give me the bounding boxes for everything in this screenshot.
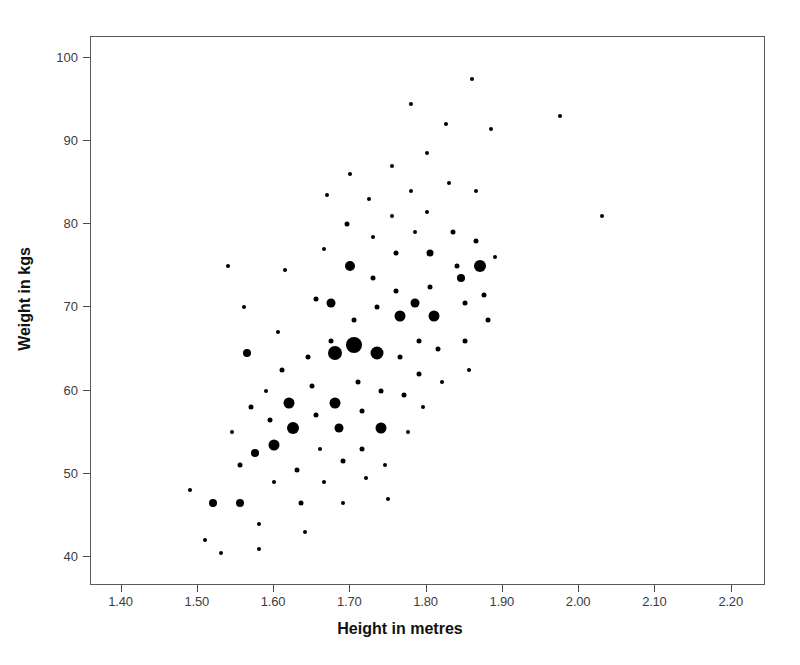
y-axis-tick — [83, 223, 90, 224]
data-point — [283, 268, 287, 272]
y-axis-tick-label: 100 — [38, 49, 78, 64]
data-point — [364, 476, 368, 480]
data-point — [425, 210, 429, 214]
data-point — [257, 522, 261, 526]
data-point — [257, 547, 261, 551]
data-point — [236, 499, 244, 507]
data-point — [306, 355, 311, 360]
data-point — [328, 346, 342, 360]
data-point — [325, 193, 329, 197]
data-point — [226, 264, 230, 268]
data-point — [447, 181, 451, 185]
plot-frame — [90, 36, 765, 585]
x-axis-tick-label: 2.00 — [566, 594, 591, 609]
x-axis-tick — [197, 585, 198, 592]
data-point — [203, 538, 207, 542]
data-point — [371, 347, 384, 360]
data-point — [264, 389, 268, 393]
y-axis-tick-label: 60 — [38, 382, 78, 397]
x-axis-tick-label: 1.70 — [337, 594, 362, 609]
y-axis-tick — [83, 390, 90, 391]
data-point — [359, 409, 364, 414]
x-axis-tick-label: 1.50 — [185, 594, 210, 609]
data-point — [401, 392, 406, 397]
data-point — [436, 346, 441, 351]
data-point — [371, 276, 376, 281]
data-point — [474, 238, 479, 243]
x-axis-tick — [502, 585, 503, 592]
y-axis-tick — [83, 473, 90, 474]
data-point — [485, 317, 490, 322]
data-point — [470, 77, 474, 81]
data-point — [314, 297, 319, 302]
data-point — [481, 292, 486, 297]
x-axis-tick-label: 2.10 — [642, 594, 667, 609]
data-point — [558, 114, 562, 118]
x-axis-tick — [731, 585, 732, 592]
data-point — [600, 214, 604, 218]
data-point — [318, 447, 322, 451]
data-point — [390, 214, 394, 218]
data-point — [462, 338, 467, 343]
plot-data-area — [91, 37, 764, 584]
data-point — [287, 422, 299, 434]
data-point — [345, 261, 355, 271]
data-point — [279, 367, 284, 372]
data-point — [416, 338, 421, 343]
data-point — [406, 430, 410, 434]
y-axis-tick-label: 80 — [38, 216, 78, 231]
data-point — [341, 501, 345, 505]
data-point — [440, 380, 444, 384]
data-point — [413, 230, 417, 234]
y-axis-tick — [83, 556, 90, 557]
data-point — [355, 380, 360, 385]
data-point — [310, 384, 315, 389]
x-axis-tick — [121, 585, 122, 592]
x-axis-tick — [273, 585, 274, 592]
data-point — [397, 355, 402, 360]
data-point — [411, 299, 420, 308]
data-point — [327, 299, 336, 308]
data-point — [322, 247, 326, 251]
data-point — [375, 305, 380, 310]
x-axis-tick-label: 1.80 — [413, 594, 438, 609]
data-point — [394, 288, 399, 293]
data-point — [298, 500, 303, 505]
data-point — [451, 230, 456, 235]
y-axis-title: Weight in kgs — [16, 199, 34, 399]
data-point — [427, 250, 434, 257]
data-point — [346, 337, 362, 353]
data-point — [429, 310, 440, 321]
data-point — [394, 310, 405, 321]
data-point — [219, 551, 223, 555]
data-point — [251, 449, 259, 457]
data-point — [242, 305, 246, 309]
y-axis-tick-label: 70 — [38, 299, 78, 314]
data-point — [334, 423, 343, 432]
data-point — [467, 368, 471, 372]
data-point — [330, 398, 341, 409]
scatter-plot-figure: 1.401.501.601.701.801.902.002.102.204050… — [0, 0, 800, 665]
data-point — [209, 499, 217, 507]
data-point — [489, 127, 493, 131]
data-point — [237, 463, 242, 468]
data-point — [348, 172, 352, 176]
data-point — [276, 330, 280, 334]
data-point — [462, 301, 467, 306]
data-point — [457, 274, 465, 282]
data-point — [474, 260, 486, 272]
data-point — [329, 338, 334, 343]
data-point — [378, 388, 383, 393]
data-point — [269, 439, 280, 450]
data-point — [359, 446, 364, 451]
x-axis-tick-label: 1.90 — [490, 594, 515, 609]
y-axis-tick-label: 40 — [38, 548, 78, 563]
x-axis-tick-label: 1.40 — [108, 594, 133, 609]
data-point — [371, 235, 375, 239]
y-axis-tick-label: 50 — [38, 465, 78, 480]
data-point — [188, 488, 192, 492]
data-point — [383, 463, 387, 467]
x-axis-tick — [426, 585, 427, 592]
data-point — [416, 371, 421, 376]
data-point — [340, 459, 345, 464]
